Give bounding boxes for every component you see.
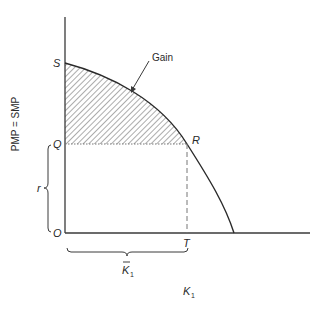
gain-diagram: Gain S Q O R T PMP = SMP r K 1 K 1 [0,0,322,311]
x-axis-label: K [183,285,191,297]
point-o-label: O [53,227,62,239]
point-t-label: T [183,237,191,249]
point-q-label: Q [53,138,62,150]
x-axis-label-subscript: 1 [191,292,195,299]
k-bar-brace [67,248,188,256]
r-brace [44,145,51,232]
gain-label: Gain [152,52,173,63]
r-label: r [37,182,42,194]
gain-arrow [132,61,149,90]
point-r-label: R [192,134,200,146]
gain-area [65,63,187,144]
k-bar-subscript: 1 [130,271,134,278]
k-bar-label: K [122,264,130,276]
point-s-label: S [53,57,61,69]
y-axis-label: PMP = SMP [10,96,21,151]
